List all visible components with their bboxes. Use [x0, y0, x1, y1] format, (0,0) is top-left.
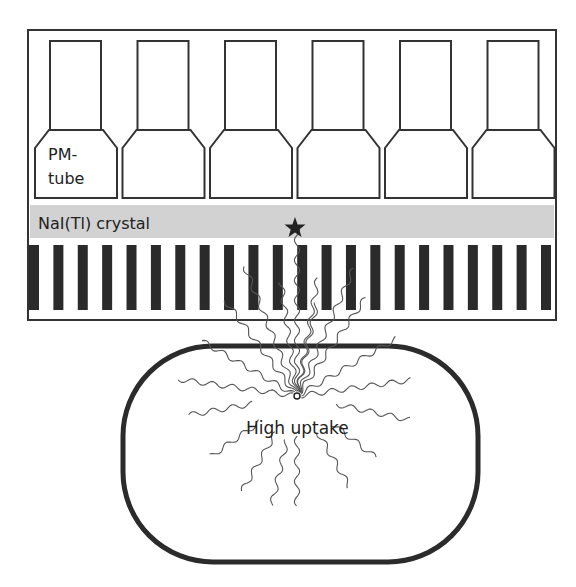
collimator-septum	[175, 245, 185, 310]
collimator-septum	[346, 245, 356, 310]
gamma-ray	[294, 436, 299, 506]
high-uptake-label: High uptake	[246, 418, 349, 438]
gamma-ray	[317, 433, 348, 488]
collimator-septum	[224, 245, 234, 310]
pm-tube-neck	[138, 41, 189, 130]
pm-tube-neck	[313, 41, 364, 130]
gamma-ray	[271, 439, 288, 505]
collimator-septum	[517, 245, 527, 310]
pm-tube-base	[298, 130, 380, 198]
pm-tube-label-line2: tube	[48, 169, 84, 188]
pm-tube-neck	[50, 41, 101, 130]
collimator-septum	[127, 245, 137, 310]
pm-tube-base	[123, 130, 205, 198]
uptake-source-dot	[294, 393, 300, 399]
collimator-septum	[419, 245, 429, 310]
gamma-ray	[189, 401, 253, 415]
pm-tube-neck	[488, 41, 539, 130]
collimator-septum	[248, 245, 258, 310]
collimator-septum	[492, 245, 502, 310]
pm-tube-base	[385, 130, 467, 198]
patient-body-outline	[123, 346, 478, 562]
collimator-septum	[297, 245, 307, 310]
collimator-septum	[468, 245, 478, 310]
collimator-septum	[541, 245, 551, 310]
pm-tube-label-line1: PM-	[48, 145, 77, 164]
collimator-septum	[200, 245, 210, 310]
collimator-septum	[53, 245, 63, 310]
collimator-septum	[78, 245, 88, 310]
gamma-ray	[241, 432, 274, 491]
pm-tube-base	[473, 130, 555, 198]
collimator-septum	[151, 245, 161, 310]
gamma-camera-diagram: NaI(Tl) crystal PM- tube High uptake	[0, 0, 576, 587]
collimator-septum	[29, 245, 39, 310]
collimator-septum	[395, 245, 405, 310]
pm-tube-neck	[225, 41, 276, 130]
pm-tube-neck	[400, 41, 451, 130]
collimator-septum	[322, 245, 332, 310]
gamma-ray	[301, 378, 410, 398]
collimator-septum	[370, 245, 380, 310]
pm-tube-base	[210, 130, 292, 198]
collimator-septum	[443, 245, 453, 310]
collimator-septum	[102, 245, 112, 310]
crystal-label: NaI(Tl) crystal	[38, 214, 150, 233]
